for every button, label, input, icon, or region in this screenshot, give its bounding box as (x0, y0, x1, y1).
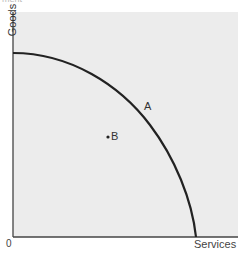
point-b-label: B (111, 130, 118, 142)
point-b-marker (106, 135, 109, 138)
y-axis-label: Goods (6, 0, 18, 40)
x-axis-label: Services (194, 238, 236, 250)
ppf-curve (13, 53, 196, 237)
point-a-label: A (144, 100, 151, 112)
origin-label: 0 (6, 238, 12, 249)
ppf-chart (0, 0, 245, 253)
